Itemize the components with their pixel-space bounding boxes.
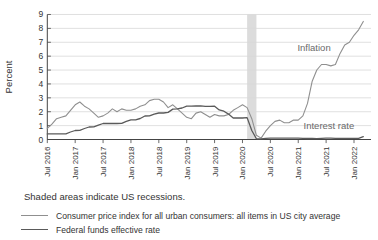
y-axis-label: Percent [3, 60, 14, 93]
x-tick-label: Jan 2017 [71, 146, 80, 179]
x-tick-label: Jul 2019 [211, 146, 220, 177]
interest-rate-annotation: Interest rate [304, 120, 355, 131]
y-tick-label: 7 [39, 37, 44, 47]
y-tick-label: 5 [39, 65, 44, 75]
y-tick-label: 0 [39, 135, 44, 145]
y-tick-label: 8 [39, 23, 44, 33]
y-tick-label: 1 [39, 121, 44, 131]
legend-label-fedfunds: Federal funds effective rate [56, 225, 160, 235]
y-tick-label: 3 [39, 93, 44, 103]
legend-item-fedfunds: Federal funds effective rate [21, 223, 377, 236]
x-tick-label: Jul 2021 [322, 146, 331, 177]
plot-area: 0123456789Jul 2016Jan 2017Jul 2017Jan 20… [39, 9, 371, 179]
line-chart: 0123456789Jul 2016Jan 2017Jul 2017Jan 20… [0, 0, 378, 188]
legend: Consumer price index for all urban consu… [21, 209, 377, 237]
legend-item-cpi: Consumer price index for all urban consu… [21, 209, 377, 222]
figure: 0123456789Jul 2016Jan 2017Jul 2017Jan 20… [0, 0, 378, 240]
y-tick-label: 2 [39, 107, 44, 117]
x-tick-label: Jan 2019 [183, 146, 192, 179]
legend-label-cpi: Consumer price index for all urban consu… [56, 211, 340, 221]
x-tick-label: Jan 2022 [350, 146, 359, 179]
y-tick-label: 6 [39, 51, 44, 61]
cpi-line-swatch [21, 215, 48, 216]
inflation-annotation: Inflation [297, 42, 330, 53]
x-tick-label: Jan 2018 [127, 146, 136, 179]
x-tick-label: Jul 2016 [43, 146, 52, 177]
x-tick-label: Jan 2021 [294, 146, 303, 179]
y-tick-label: 4 [39, 79, 44, 89]
x-tick-label: Jan 2020 [238, 146, 247, 179]
x-tick-label: Jul 2018 [155, 146, 164, 177]
y-tick-label: 9 [39, 9, 44, 19]
recession-note: Shaded areas indicate US recessions. [24, 191, 185, 202]
fedfunds-line-swatch [21, 229, 48, 230]
x-tick-label: Jul 2020 [266, 146, 275, 177]
x-tick-label: Jul 2017 [99, 146, 108, 177]
